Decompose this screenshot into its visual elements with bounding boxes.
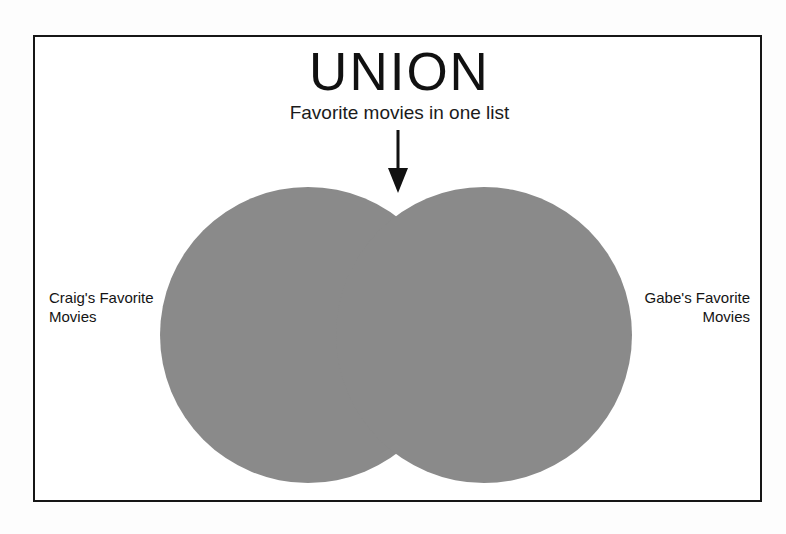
set-label-left: Craig's Favorite Movies bbox=[49, 288, 181, 326]
venn-union-shape bbox=[160, 187, 632, 483]
set-label-left-line1: Craig's Favorite bbox=[49, 288, 181, 307]
diagram-subtitle: Favorite movies in one list bbox=[35, 103, 764, 122]
set-circle-right bbox=[336, 187, 632, 483]
venn-diagram-page: UNION Favorite movies in one list Craig'… bbox=[0, 0, 786, 534]
set-label-right: Gabe's Favorite Movies bbox=[618, 288, 750, 326]
diagram-frame: UNION Favorite movies in one list Craig'… bbox=[33, 35, 762, 502]
set-label-right-line1: Gabe's Favorite bbox=[618, 288, 750, 307]
diagram-title: UNION bbox=[35, 45, 764, 98]
set-label-left-line2: Movies bbox=[49, 307, 181, 326]
down-arrow-icon bbox=[385, 130, 411, 194]
set-label-right-line2: Movies bbox=[618, 307, 750, 326]
